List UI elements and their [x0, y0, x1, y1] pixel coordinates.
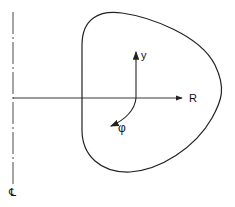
diagram-canvas: [0, 0, 235, 207]
phi-label: φ: [118, 122, 126, 134]
y-axis-label: y: [141, 50, 147, 61]
centerline-label: ℄: [9, 187, 16, 198]
cross-section-outline: [82, 12, 222, 172]
r-axis-label: R: [189, 93, 197, 104]
